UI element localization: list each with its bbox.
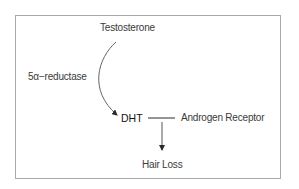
dht-label: DHT	[121, 112, 143, 124]
enzyme-label: 5α−reductase	[28, 71, 87, 83]
testosterone-label: Testosterone	[100, 22, 155, 34]
diagram-frame	[15, 15, 281, 179]
hair-loss-label: Hair Loss	[142, 159, 182, 171]
androgen-receptor-label: Androgen Receptor	[181, 112, 264, 124]
